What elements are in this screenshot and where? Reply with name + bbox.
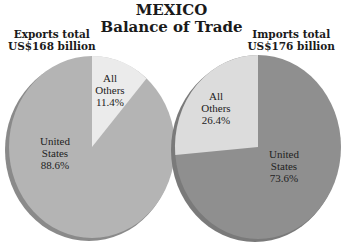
imports-pie: All Others 26.4% United States 73.6%: [171, 55, 341, 242]
imports-us-label-2: States: [271, 160, 297, 172]
imports-us-value: 73.6%: [270, 172, 298, 184]
exports-us-value: 88.6%: [41, 159, 69, 171]
imports-others-value: 26.4%: [202, 114, 230, 126]
exports-total-line-2: US$168 billion: [8, 40, 96, 52]
imports-total-line-2: US$176 billion: [247, 40, 335, 52]
imports-others-label-1: All: [209, 90, 223, 102]
imports-us-label-1: United: [269, 148, 299, 160]
imports-others-label-2: Others: [201, 102, 230, 114]
exports-us-label-1: United: [40, 135, 70, 147]
imports-total: Imports total US$176 billion: [247, 28, 335, 52]
exports-total: Exports total US$168 billion: [8, 28, 96, 52]
chart-title-line-1: MEXICO: [0, 2, 343, 19]
exports-others-label-2: Others: [95, 84, 124, 96]
exports-pie: All Others 11.4% United States 88.6%: [5, 56, 175, 241]
imports-total-line-1: Imports total: [247, 28, 335, 40]
exports-total-line-1: Exports total: [8, 28, 96, 40]
exports-others-value: 11.4%: [96, 96, 124, 108]
exports-others-label-1: All: [103, 72, 117, 84]
exports-us-label-2: States: [42, 147, 68, 159]
